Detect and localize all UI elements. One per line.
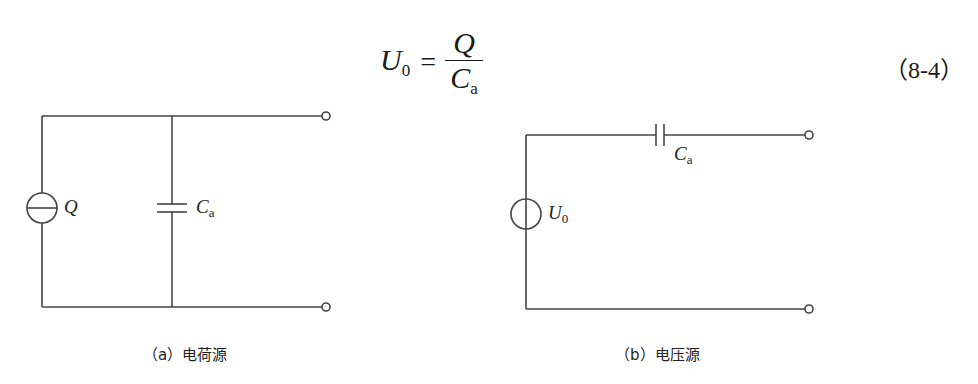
charge-source-icon (27, 193, 57, 223)
terminal-icon (805, 131, 813, 139)
capacitor-a-label: Ca (196, 196, 214, 221)
capacitor-icon (157, 204, 187, 212)
circuit-diagrams (0, 0, 978, 384)
caption-b: （b）电压源 (615, 343, 700, 364)
charge-source-label: Q (64, 196, 78, 218)
caption-a: （a）电荷源 (143, 343, 227, 364)
terminal-icon (322, 303, 330, 311)
voltage-source-label: U0 (548, 202, 568, 227)
terminal-icon (805, 305, 813, 313)
capacitor-b-label: Ca (674, 143, 692, 168)
capacitor-icon (656, 124, 664, 146)
terminal-icon (322, 112, 330, 120)
